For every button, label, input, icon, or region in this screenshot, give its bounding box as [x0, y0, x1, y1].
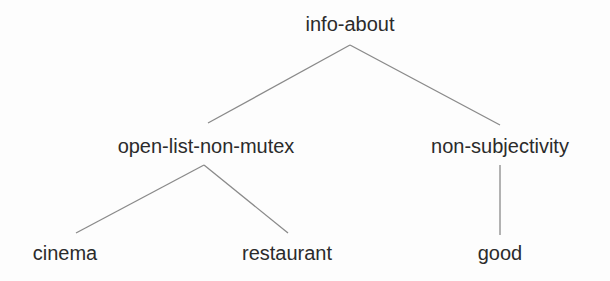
edge-info-about-open-list-non-mutex: [208, 45, 350, 123]
node-open-list-non-mutex: open-list-non-mutex: [118, 136, 295, 156]
node-non-subjectivity: non-subjectivity: [431, 136, 569, 156]
edge-open-list-non-mutex-cinema: [76, 165, 204, 233]
node-info-about: info-about: [306, 14, 395, 34]
node-cinema: cinema: [33, 243, 97, 263]
node-good: good: [478, 243, 523, 263]
edge-info-about-non-subjectivity: [350, 45, 500, 125]
node-restaurant: restaurant: [242, 243, 332, 263]
edge-open-list-non-mutex-restaurant: [204, 165, 288, 233]
